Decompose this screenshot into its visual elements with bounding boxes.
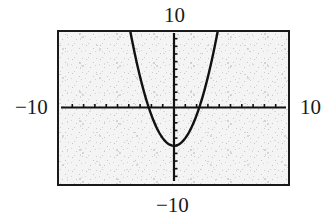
graph-window xyxy=(0,0,335,218)
